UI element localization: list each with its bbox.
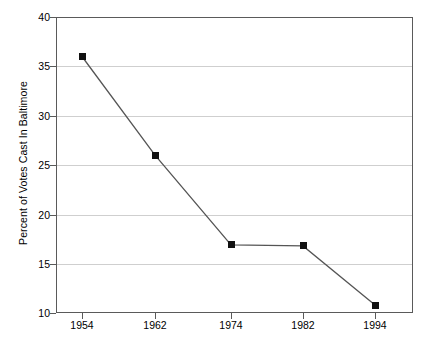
y-tick-label-35: 35 [16,61,50,71]
data-point-marker [152,152,159,159]
data-point-marker [228,241,235,248]
y-tick-mark-10 [50,313,56,314]
data-point-marker [372,302,379,309]
gridline-25 [57,165,412,166]
gridline-35 [57,66,412,67]
x-tick-label-1994: 1994 [345,320,405,331]
x-tick-label-1962: 1962 [125,320,185,331]
y-tick-label-25: 25 [16,160,50,170]
x-tick-label-1974: 1974 [201,320,261,331]
y-tick-label-10: 10 [16,308,50,318]
gridline-30 [57,116,412,117]
x-tick-label-1982: 1982 [273,320,333,331]
x-tick-label-1954: 1954 [52,320,112,331]
data-point-marker [79,53,86,60]
data-point-marker [300,242,307,249]
y-tick-label-15: 15 [16,259,50,269]
y-tick-label-30: 30 [16,111,50,121]
y-tick-label-20: 20 [16,210,50,220]
gridline-15 [57,264,412,265]
chart-container: Percent of Votes Cast In Baltimore 40 35… [0,0,424,347]
y-tick-label-40: 40 [16,12,50,22]
gridline-20 [57,215,412,216]
plot-area [56,17,413,313]
